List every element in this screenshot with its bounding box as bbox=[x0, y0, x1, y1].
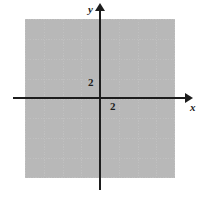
y-axis-arrow-icon bbox=[95, 3, 105, 11]
y-axis-tick-label-2: 2 bbox=[88, 77, 94, 88]
x-axis-label: x bbox=[190, 102, 196, 113]
coordinate-plane-figure: y x 2 2 bbox=[0, 0, 203, 197]
y-axis-line bbox=[99, 10, 101, 190]
y-axis-label: y bbox=[88, 4, 93, 15]
x-axis-tick-label-2: 2 bbox=[110, 101, 116, 112]
